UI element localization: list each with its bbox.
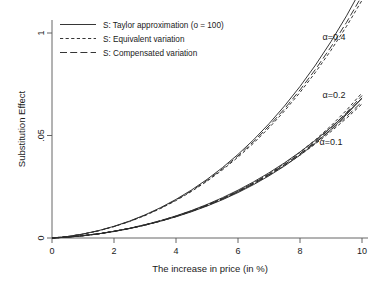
curve-alpha-0.4-short-dash xyxy=(52,93,362,238)
x-tick-label-4: 8 xyxy=(297,246,302,256)
chart-svg: 0 .05 1 Substitution Effect 0 2 4 6 8 10… xyxy=(0,0,382,286)
y-axis-ticks xyxy=(47,33,52,238)
curve-alpha-0.4-long-dash xyxy=(52,96,362,238)
y-tick-label-1: .05 xyxy=(36,129,46,142)
chart-annotations: α=0.4α=0.2α=0.1 xyxy=(320,32,346,147)
chart-curves xyxy=(52,0,362,238)
curve-alpha-0.1-long-dash xyxy=(52,102,362,238)
curve-alpha-0.2-long-dash xyxy=(52,0,362,238)
annotation-alpha-0: α=0.4 xyxy=(323,32,346,42)
x-axis-title: The increase in price (in %) xyxy=(152,263,268,274)
chart-figure: 0 .05 1 Substitution Effect 0 2 4 6 8 10… xyxy=(0,0,382,286)
y-tick-label-0: 0 xyxy=(36,235,46,240)
curve-alpha-0.4-solid xyxy=(52,98,362,238)
legend-label-equivalent: S: Equivalent variation xyxy=(103,35,185,44)
curve-alpha-0.2-solid xyxy=(52,0,362,238)
annotation-alpha-1: α=0.2 xyxy=(323,90,346,100)
legend-label-taylor: S: Taylor approximation (o = 100) xyxy=(103,21,224,30)
curve-alpha-0.2-short-dash xyxy=(52,0,362,238)
x-tick-label-2: 4 xyxy=(173,246,178,256)
x-axis-ticks xyxy=(52,238,362,243)
y-axis-title: Substitution Effect xyxy=(16,90,27,167)
x-tick-label-0: 0 xyxy=(49,246,54,256)
x-tick-label-5: 10 xyxy=(357,246,367,256)
y-tick-label-2: 1 xyxy=(36,30,46,35)
legend-label-compensated: S: Compensated variation xyxy=(103,49,198,58)
x-tick-label-3: 6 xyxy=(235,246,240,256)
chart-legend: S: Taylor approximation (o = 100) S: Equ… xyxy=(60,21,224,58)
x-tick-label-1: 2 xyxy=(111,246,116,256)
annotation-alpha-2: α=0.1 xyxy=(320,137,343,147)
curve-alpha-0.1-short-dash xyxy=(52,104,362,238)
curve-alpha-0.1-solid xyxy=(52,99,362,238)
